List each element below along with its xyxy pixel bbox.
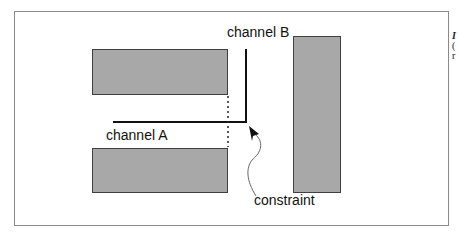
channel-b-label: channel B (227, 25, 289, 39)
caption-fragment: r (452, 51, 455, 61)
channel-path (113, 49, 246, 122)
constraint-label: constraint (254, 193, 315, 207)
arrow-head-icon (249, 126, 259, 141)
constraint-arrow-curve (248, 134, 261, 196)
channel-a-label: channel A (106, 128, 168, 142)
